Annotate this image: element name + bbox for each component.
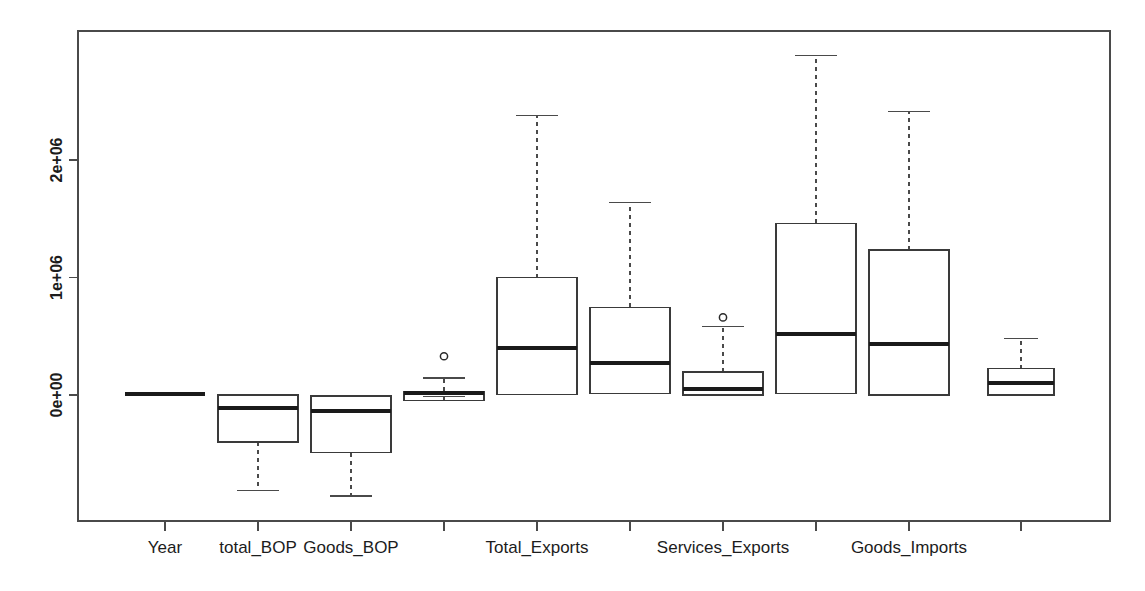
outlier-point bbox=[440, 353, 447, 360]
x-tick-label: Year bbox=[148, 538, 183, 557]
box-plot-item bbox=[988, 339, 1054, 395]
box-iqr bbox=[776, 223, 856, 393]
x-tick-label: Services_Exports bbox=[657, 538, 789, 557]
x-axis: Yeartotal_BOPGoods_BOPTotal_ExportsServi… bbox=[148, 521, 1021, 557]
box-iqr bbox=[869, 250, 949, 395]
x-tick-label: Goods_BOP bbox=[303, 538, 398, 557]
box-plot-item bbox=[497, 115, 577, 394]
box-plot-item bbox=[404, 353, 484, 401]
box-plot-item bbox=[869, 112, 949, 395]
box-plot-item bbox=[776, 55, 856, 393]
x-tick-label: Goods_Imports bbox=[851, 538, 967, 557]
box-series bbox=[125, 55, 1054, 496]
box-iqr bbox=[683, 372, 763, 395]
box-iqr bbox=[311, 396, 391, 453]
boxplot-figure: 0e+001e+062e+06 Yeartotal_BOPGoods_BOPTo… bbox=[0, 0, 1145, 591]
box-plot-item bbox=[590, 202, 670, 394]
plot-border bbox=[78, 31, 1110, 521]
y-tick-label: 1e+06 bbox=[48, 255, 65, 300]
y-tick-label: 2e+06 bbox=[48, 137, 65, 182]
y-axis: 0e+001e+062e+06 bbox=[48, 137, 79, 417]
plot-frame bbox=[78, 31, 1110, 521]
y-tick-label: 0e+00 bbox=[48, 372, 65, 417]
x-tick-label: total_BOP bbox=[219, 538, 297, 557]
x-tick-label: Total_Exports bbox=[486, 538, 589, 557]
box-iqr bbox=[590, 307, 670, 393]
outlier-point bbox=[719, 314, 726, 321]
box-plot-item bbox=[218, 395, 298, 491]
box-iqr bbox=[218, 395, 298, 442]
box-plot-item bbox=[683, 314, 763, 395]
box-plot-item bbox=[311, 396, 391, 496]
box-iqr bbox=[497, 278, 577, 395]
boxplot-canvas: 0e+001e+062e+06 Yeartotal_BOPGoods_BOPTo… bbox=[0, 0, 1145, 591]
